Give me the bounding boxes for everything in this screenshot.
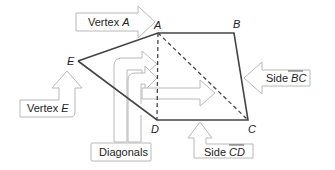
- diagonal-ac: [158, 33, 248, 120]
- diagonals-callout-label: Diagonals: [99, 146, 148, 158]
- vertex-label-c: C: [248, 123, 256, 135]
- vertex-label-a: A: [153, 19, 161, 31]
- vertex-e-callout: Vertex E: [20, 71, 82, 117]
- side-bc-callout: Side BC: [244, 62, 310, 94]
- vertex-a-callout-label: Vertex A: [88, 16, 130, 28]
- side-cd-callout: Side CD: [188, 122, 253, 158]
- vertex-e-callout-label: Vertex E: [27, 102, 69, 114]
- pentagon-diagram: Vertex A Vertex E Diagonals Side BC Side…: [0, 0, 335, 170]
- vertex-label-e: E: [67, 55, 75, 67]
- vertex-label-d: D: [151, 123, 159, 135]
- vertex-label-b: B: [233, 18, 240, 30]
- side-bc-callout-label: Side BC: [266, 72, 306, 84]
- side-cd-callout-label: Side CD: [204, 146, 245, 158]
- vertex-a-callout: Vertex A: [76, 6, 155, 38]
